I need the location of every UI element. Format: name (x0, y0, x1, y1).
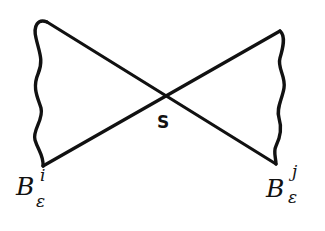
right-wavy-boundary (275, 31, 285, 164)
bowtie-diagram: S B i ε B j ε (0, 0, 325, 231)
left-region-label: B i ε (15, 165, 45, 211)
left-label-superscript: i (40, 165, 45, 185)
right-region-label: B j ε (265, 161, 298, 207)
left-label-base: B (15, 172, 34, 201)
right-label-superscript: j (288, 161, 298, 181)
right-label-base: B (265, 174, 284, 203)
center-label-s: S (157, 112, 169, 132)
right-label-subscript: ε (288, 187, 297, 207)
left-wavy-boundary (35, 21, 47, 166)
left-label-subscript: ε (36, 191, 45, 211)
